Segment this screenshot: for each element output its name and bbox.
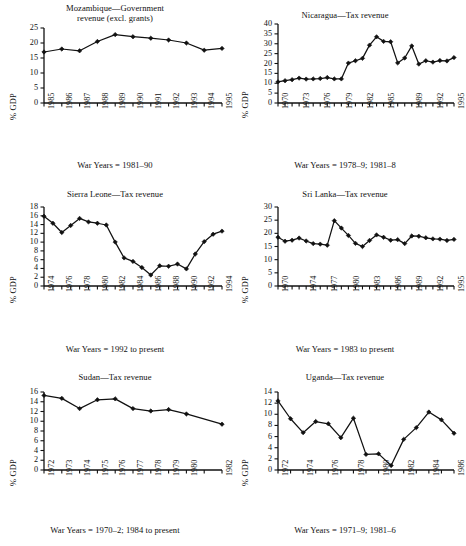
- data-point-marker: [220, 229, 224, 233]
- data-point-marker: [332, 77, 336, 81]
- data-point-marker: [297, 236, 301, 240]
- data-point-marker: [417, 234, 421, 238]
- data-point-marker: [297, 76, 301, 80]
- data-point-marker: [431, 237, 435, 241]
- series-line: [278, 221, 454, 247]
- data-point-marker: [95, 398, 99, 402]
- data-point-marker: [131, 35, 135, 39]
- data-point-marker: [202, 48, 206, 52]
- data-point-marker: [220, 46, 224, 50]
- data-point-marker: [149, 409, 153, 413]
- plot-area-sri-lanka: [230, 181, 460, 366]
- data-point-marker: [166, 264, 170, 268]
- chart-panel-sierra-leone: Sierra Leone—Tax revenue% GDPWar Years =…: [0, 181, 230, 366]
- data-point-marker: [283, 78, 287, 82]
- data-point-marker: [149, 36, 153, 40]
- data-point-marker: [60, 47, 64, 51]
- series-line: [278, 37, 454, 82]
- data-point-marker: [364, 452, 368, 456]
- data-point-marker: [166, 407, 170, 411]
- data-point-marker: [184, 41, 188, 45]
- data-point-marker: [95, 39, 99, 43]
- plot-area-mozambique: [0, 0, 230, 181]
- data-point-marker: [290, 77, 294, 81]
- chart-panel-sri-lanka: Sri Lanka—Tax revenue% GDPWar Years = 19…: [230, 181, 460, 366]
- data-point-marker: [311, 241, 315, 245]
- data-point-marker: [304, 77, 308, 81]
- data-point-marker: [424, 59, 428, 63]
- data-point-marker: [95, 221, 99, 225]
- plot-area-nicaragua: [230, 0, 460, 181]
- data-point-marker: [445, 59, 449, 63]
- data-point-marker: [104, 223, 108, 227]
- data-point-marker: [339, 77, 343, 81]
- chart-panel-sudan: Sudan—Tax revenue% GDPWar Years = 1970–2…: [0, 366, 230, 546]
- data-point-marker: [360, 56, 364, 60]
- data-point-marker: [318, 242, 322, 246]
- data-point-marker: [431, 60, 435, 64]
- chart-panel-mozambique: Mozambique—Government revenue (excl. gra…: [0, 0, 230, 181]
- data-point-marker: [438, 58, 442, 62]
- plot-area-uganda: [230, 366, 460, 546]
- plot-area-sudan: [0, 366, 230, 546]
- data-point-marker: [42, 50, 46, 54]
- data-point-marker: [452, 237, 456, 241]
- data-point-marker: [353, 59, 357, 63]
- data-point-marker: [318, 76, 322, 80]
- chart-panel-uganda: Uganda—Tax revenue% GDPWar Years = 1971–…: [230, 366, 460, 546]
- data-point-marker: [388, 238, 392, 242]
- data-point-marker: [424, 236, 428, 240]
- data-point-marker: [184, 412, 188, 416]
- data-point-marker: [220, 422, 224, 426]
- data-point-marker: [290, 238, 294, 242]
- data-point-marker: [325, 243, 329, 247]
- data-point-marker: [304, 239, 308, 243]
- data-point-marker: [452, 55, 456, 59]
- data-point-marker: [42, 393, 46, 397]
- data-point-marker: [86, 220, 90, 224]
- data-point-marker: [325, 75, 329, 79]
- data-point-marker: [77, 49, 81, 53]
- data-point-marker: [381, 235, 385, 239]
- data-point-marker: [417, 62, 421, 66]
- data-point-marker: [311, 77, 315, 81]
- data-point-marker: [388, 40, 392, 44]
- data-point-marker: [445, 238, 449, 242]
- data-point-marker: [113, 32, 117, 36]
- plot-area-sierra-leone: [0, 181, 230, 366]
- data-point-marker: [166, 38, 170, 42]
- chart-panel-nicaragua: Nicaragua—Tax revenue% GDPWar Years = 19…: [230, 0, 460, 181]
- data-point-marker: [346, 61, 350, 65]
- data-point-marker: [438, 237, 442, 241]
